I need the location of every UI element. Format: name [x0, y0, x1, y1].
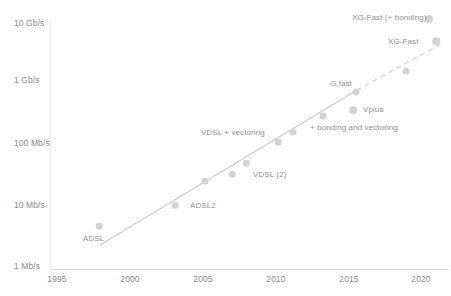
y-tick-label-1mbps: 1 Mb/s: [14, 261, 40, 271]
trend-line-dashed: [357, 43, 443, 90]
data-point-vdsl-2: [229, 171, 236, 178]
trend-line-group: [0, 0, 451, 296]
trend-line-solid: [100, 90, 357, 245]
data-point-vectoring: [290, 129, 297, 136]
x-axis-line: [50, 269, 449, 270]
y-tick-label-10mbps: 10 Mb/s: [14, 200, 45, 210]
x-tick-label-1995: 1995: [47, 274, 66, 284]
annotation-vdsl-vectoring: VDSL + vectoring: [201, 128, 265, 137]
data-point-vdsl: [202, 178, 209, 185]
annotation-xgfast-bonding: XG-Fast (+ bonding): [352, 13, 427, 22]
annotation-vplus: Vplus: [363, 105, 384, 114]
data-point-vdsl-vectoring: [275, 139, 282, 146]
y-tick-label-1gbps: 1 Gb/s: [14, 75, 40, 85]
x-tick-label-2000: 2000: [120, 274, 139, 284]
data-point-xgfast-mid: [403, 68, 410, 75]
data-point-vplus: [349, 106, 357, 114]
y-axis-line: [50, 20, 51, 270]
data-point-adsl2: [172, 202, 179, 209]
x-tick-label-2005: 2005: [193, 274, 212, 284]
broadband-speed-evolution-chart: 10 Gb/s 1 Gb/s 100 Mb/s 10 Mb/s 1 Mb/s 1…: [0, 0, 451, 296]
data-point-xgfast: [432, 37, 440, 45]
data-point-bonding-and-vectoring: [320, 113, 327, 120]
x-tick-label-2015: 2015: [339, 274, 358, 284]
data-point-gfast: [353, 89, 360, 96]
annotation-xgfast: XG-Fast: [388, 37, 418, 46]
annotation-adsl2: ADSL2: [190, 201, 216, 210]
x-tick-label-2020: 2020: [411, 274, 430, 284]
annotation-bonding-and-vectoring: + bonding and vectoring: [310, 123, 398, 132]
x-tick-label-2010: 2010: [266, 274, 285, 284]
y-tick-label-10gbps: 10 Gb/s: [14, 18, 44, 28]
annotation-gfast: G.fast: [330, 79, 352, 88]
annotation-adsl: ADSL: [83, 234, 104, 243]
annotation-vdsl-2: VDSL (2): [253, 170, 286, 179]
y-tick-label-100mbps: 100 Mb/s: [14, 138, 50, 148]
data-point-vdsl2: [243, 160, 250, 167]
data-point-adsl: [96, 223, 103, 230]
